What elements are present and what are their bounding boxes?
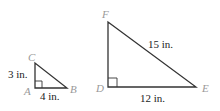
- side-ef-label: 15 in.: [148, 38, 173, 50]
- vertex-c-label: C: [28, 51, 36, 63]
- vertex-d-label: D: [95, 82, 104, 94]
- side-de-label: 12 in.: [140, 92, 165, 104]
- similar-triangles-diagram: C A B 3 in. 4 in. F D E 15 in. 12 in.: [0, 0, 220, 111]
- triangle-def: [108, 22, 196, 87]
- side-ac-label: 3 in.: [8, 68, 28, 80]
- triangle-abc: [35, 63, 67, 88]
- side-ab-label: 4 in.: [40, 90, 60, 102]
- vertex-b-label: B: [70, 83, 77, 95]
- right-angle-marker-d: [108, 78, 117, 87]
- vertex-f-label: F: [101, 8, 109, 20]
- large-triangle: F D E 15 in. 12 in.: [95, 8, 209, 104]
- small-triangle: C A B 3 in. 4 in.: [8, 51, 77, 102]
- vertex-e-label: E: [201, 82, 209, 94]
- vertex-a-label: A: [23, 85, 31, 97]
- right-angle-marker-a: [35, 81, 42, 88]
